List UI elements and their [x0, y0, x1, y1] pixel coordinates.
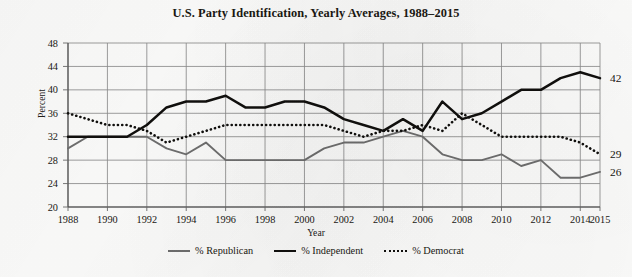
- svg-text:2012: 2012: [531, 214, 552, 225]
- series-end-labels: 264229: [610, 72, 622, 178]
- svg-text:48: 48: [48, 38, 58, 49]
- svg-text:42: 42: [610, 72, 622, 84]
- x-axis-label: Year: [0, 227, 632, 238]
- svg-text:28: 28: [48, 155, 58, 166]
- svg-text:29: 29: [610, 148, 622, 160]
- legend-item-republican: % Republican: [168, 245, 253, 256]
- svg-text:44: 44: [48, 61, 58, 72]
- legend-item-independent: % Independent: [274, 245, 363, 256]
- svg-text:2014: 2014: [570, 214, 591, 225]
- svg-text:1992: 1992: [137, 214, 158, 225]
- svg-text:2006: 2006: [412, 214, 433, 225]
- party-identification-chart: U.S. Party Identification, Yearly Averag…: [0, 0, 632, 277]
- legend-swatch-democrat: [384, 250, 407, 252]
- svg-text:2000: 2000: [294, 214, 315, 225]
- legend-label-independent: % Independent: [301, 245, 363, 256]
- svg-text:2004: 2004: [373, 214, 394, 225]
- legend-label-democrat: % Democrat: [412, 245, 464, 256]
- legend-swatch-independent: [274, 250, 296, 252]
- data-series-lines: [68, 72, 600, 177]
- svg-text:2008: 2008: [452, 214, 473, 225]
- y-axis-ticks: 2024283236404448: [48, 38, 68, 213]
- svg-text:24: 24: [48, 178, 58, 189]
- legend-label-republican: % Republican: [195, 245, 253, 256]
- svg-text:40: 40: [48, 84, 58, 95]
- svg-text:20: 20: [48, 202, 58, 213]
- svg-text:2010: 2010: [491, 214, 512, 225]
- svg-text:2002: 2002: [334, 214, 355, 225]
- x-axis-ticks: 1988199019921994199619982000200220042006…: [58, 207, 611, 225]
- svg-text:1998: 1998: [255, 214, 276, 225]
- svg-text:32: 32: [48, 131, 58, 142]
- svg-text:36: 36: [48, 108, 58, 119]
- svg-text:1996: 1996: [215, 214, 236, 225]
- svg-text:1990: 1990: [97, 214, 118, 225]
- legend-item-democrat: % Democrat: [384, 245, 464, 256]
- chart-legend: % Republican % Independent % Democrat: [0, 245, 632, 256]
- svg-text:1988: 1988: [58, 214, 79, 225]
- svg-text:1994: 1994: [176, 214, 197, 225]
- svg-text:2015: 2015: [590, 214, 611, 225]
- svg-text:26: 26: [610, 166, 622, 178]
- legend-swatch-republican: [168, 250, 190, 252]
